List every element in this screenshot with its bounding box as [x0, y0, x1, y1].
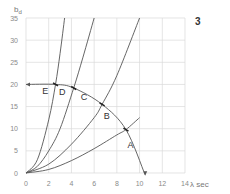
curve-label-c: C	[81, 92, 88, 102]
curve-4	[26, 118, 140, 173]
x-tick-label: 6	[92, 180, 96, 187]
curve-labels: EDCBA	[42, 86, 133, 150]
x-tick-label: 12	[158, 180, 166, 187]
y-tick-label: 30	[10, 37, 18, 44]
arrow-left-icon	[26, 82, 30, 86]
curve-label-e: E	[42, 86, 48, 96]
x-tick-label: 10	[136, 180, 144, 187]
curve-label-b: B	[104, 111, 110, 121]
x-tick-label: 0	[24, 180, 28, 187]
y-tick-label: 10	[10, 125, 18, 132]
y-tick-label: 20	[10, 81, 18, 88]
chart: 0246810121405101520253035 EDCBA bd λ sec…	[0, 0, 230, 194]
x-tick-label: 2	[47, 180, 51, 187]
y-axis-label: bd	[14, 5, 22, 15]
x-axis-label: λ sec	[190, 180, 209, 189]
x-tick-label: 4	[69, 180, 73, 187]
y-tick-label: 35	[10, 15, 18, 22]
y-tick-label: 15	[10, 103, 18, 110]
panel-label: 3	[195, 16, 201, 27]
curve-label-a: A	[127, 140, 133, 150]
curve-label-d: D	[59, 87, 66, 97]
x-tick-label: 8	[115, 180, 119, 187]
intersection-mark	[100, 103, 105, 106]
y-tick-label: 5	[14, 147, 18, 154]
y-tick-label: 25	[10, 59, 18, 66]
y-tick-label: 0	[14, 170, 18, 177]
x-tick-label: 14	[181, 180, 189, 187]
